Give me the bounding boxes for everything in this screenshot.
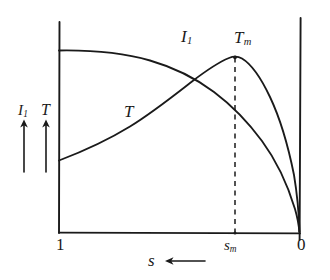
yaxis-label-i1: I1 — [18, 103, 28, 119]
arrow-up-icon-i1 — [20, 120, 28, 173]
curve-i1 — [59, 50, 299, 231]
figure-canvas — [0, 0, 330, 280]
sm-axis-tick — [234, 232, 237, 235]
left-axis — [59, 22, 60, 233]
xaxis-tick-zero: 0 — [297, 236, 306, 253]
xaxis-tick-sm: sm — [224, 238, 237, 254]
peak-marker-dot — [233, 55, 237, 59]
xaxis-tick-one: 1 — [56, 236, 65, 253]
curve-label-i1: I1 — [181, 28, 192, 47]
yaxis-arrow-group — [20, 120, 50, 173]
xaxis-label-s: s — [148, 252, 155, 269]
bottom-axis — [59, 233, 300, 234]
curve-label-t: T — [124, 103, 133, 120]
peak-label-tm: Tm — [234, 29, 251, 48]
arrow-left-icon-s-axis — [165, 257, 205, 265]
yaxis-label-t: T — [41, 102, 50, 118]
arrow-up-icon-t — [42, 120, 50, 173]
right-axis — [300, 18, 301, 240]
